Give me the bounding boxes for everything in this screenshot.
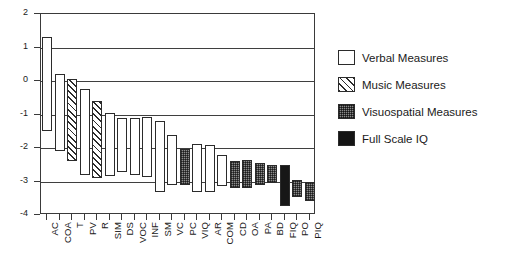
x-tick-label-ar: AR <box>213 222 223 235</box>
x-tick-label-inf: INF <box>150 222 160 238</box>
legend-item-music: Music Measures <box>338 71 516 98</box>
bar-bd <box>267 165 277 183</box>
bar-viq <box>192 144 202 192</box>
x-tick-mark <box>109 214 110 220</box>
bar-oa <box>242 160 252 188</box>
x-tick-mark <box>284 214 285 220</box>
x-tick-label-po: PO <box>300 222 310 236</box>
bar-sm <box>155 121 165 191</box>
bar-inf <box>142 117 152 178</box>
y-tick-label: -2 <box>12 141 28 151</box>
x-tick-label-oa: OA <box>250 222 260 236</box>
x-tick-label-sim: SIM <box>113 222 123 239</box>
x-tick-label-pc: PC <box>188 222 198 235</box>
x-tick-label-ac: AC <box>50 222 60 235</box>
y-tick-label: 0 <box>12 74 28 84</box>
bar-fiq <box>280 165 290 206</box>
bar-po <box>292 180 302 197</box>
x-tick-mark <box>296 214 297 220</box>
y-tick-label: -1 <box>12 108 28 118</box>
legend-swatch-visuospatial <box>338 104 355 119</box>
gridline <box>41 81 314 82</box>
x-tick-mark <box>184 214 185 220</box>
x-tick-mark <box>221 214 222 220</box>
bar-com <box>217 155 227 185</box>
x-tick-mark <box>309 214 310 220</box>
chart-figure: 210-1-2-3-4 ACCOATPVRSIMDSVOCINFSMVCPCVI… <box>0 0 520 269</box>
bar-ar <box>205 145 215 191</box>
y-tick-label: 1 <box>12 41 28 51</box>
x-tick-label-coa: COA <box>63 222 73 243</box>
x-tick-mark <box>46 214 47 220</box>
x-tick-label-cd: CD <box>238 222 248 236</box>
x-tick-mark <box>159 214 160 220</box>
x-tick-mark <box>134 214 135 220</box>
bar-pv <box>80 89 90 174</box>
x-tick-mark <box>146 214 147 220</box>
bar-voc <box>130 118 140 175</box>
x-tick-mark <box>246 214 247 220</box>
x-tick-mark <box>209 214 210 220</box>
x-tick-label-fiq: FIQ <box>288 222 298 238</box>
x-tick-label-vc: VC <box>175 222 185 235</box>
x-tick-label-viq: VIQ <box>200 222 210 239</box>
bar-ac <box>42 37 52 131</box>
x-tick-label-r: R <box>100 222 110 229</box>
chart-legend: Verbal MeasuresMusic MeasuresVisuospatia… <box>338 44 516 152</box>
legend-swatch-music <box>338 77 355 92</box>
y-tick-label: -3 <box>12 175 28 185</box>
x-tick-mark <box>234 214 235 220</box>
x-tick-mark <box>171 214 172 220</box>
y-tick-label: 2 <box>12 7 28 17</box>
legend-label-music: Music Measures <box>362 79 446 91</box>
bar-pa <box>255 163 265 185</box>
x-tick-mark <box>71 214 72 220</box>
legend-swatch-verbal <box>338 50 355 65</box>
x-tick-mark <box>84 214 85 220</box>
x-axis: ACCOATPVRSIMDSVOCINFSMVCPCVIQARCOMCDOAPA… <box>0 214 520 269</box>
legend-item-fsiq: Full Scale IQ <box>338 125 516 152</box>
x-tick-label-bd: BD <box>275 222 285 235</box>
bar-sim <box>105 113 115 176</box>
x-tick-mark <box>271 214 272 220</box>
x-tick-mark <box>121 214 122 220</box>
bar-ds <box>117 118 127 172</box>
x-tick-label-t: T <box>75 222 85 228</box>
legend-item-verbal: Verbal Measures <box>338 44 516 71</box>
bar-coa <box>55 74 65 151</box>
legend-label-visuospatial: Visuospatial Measures <box>362 106 478 118</box>
x-tick-label-pv: PV <box>88 222 98 235</box>
legend-item-visuospatial: Visuospatial Measures <box>338 98 516 125</box>
legend-label-fsiq: Full Scale IQ <box>362 133 428 145</box>
bar-t <box>67 79 77 161</box>
x-tick-mark <box>96 214 97 220</box>
bar-piq <box>305 182 315 201</box>
bar-vc <box>167 135 177 185</box>
plot-area <box>40 13 315 214</box>
x-tick-label-ds: DS <box>125 222 135 235</box>
bar-cd <box>230 161 240 188</box>
x-tick-mark <box>59 214 60 220</box>
x-tick-label-pa: PA <box>263 222 273 234</box>
bar-r <box>92 101 102 178</box>
x-tick-label-com: COM <box>225 222 235 244</box>
x-tick-label-voc: VOC <box>138 222 148 243</box>
legend-swatch-fsiq <box>338 131 355 146</box>
x-tick-mark <box>196 214 197 220</box>
x-tick-label-sm: SM <box>163 222 173 236</box>
bar-pc <box>180 149 190 185</box>
gridline <box>41 48 314 49</box>
legend-label-verbal: Verbal Measures <box>362 52 448 64</box>
x-tick-label-piq: PIQ <box>313 222 323 239</box>
x-tick-mark <box>259 214 260 220</box>
